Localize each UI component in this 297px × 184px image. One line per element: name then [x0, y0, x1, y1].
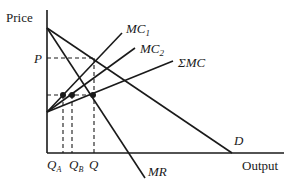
monopoly-multiplant-diagram: Price Output P MC1 MC2 ΣMC MR D QA QB Q — [0, 0, 297, 184]
sum-mc-curve — [47, 61, 173, 112]
price-label: P — [33, 51, 42, 66]
mr-label: MR — [147, 164, 167, 179]
point-qb — [69, 92, 75, 98]
point-qa — [60, 92, 66, 98]
sum-mc-label: ΣMC — [177, 55, 206, 70]
demand-label: D — [233, 133, 244, 148]
point-q — [90, 92, 96, 98]
q-label: Q — [89, 157, 99, 172]
y-axis-label: Price — [6, 10, 33, 25]
mc1-label: MC1 — [125, 21, 150, 38]
mc2-label: MC2 — [139, 41, 165, 58]
qb-label: QB — [69, 157, 83, 174]
qa-label: QA — [47, 157, 61, 174]
x-axis-label: Output — [242, 158, 279, 173]
